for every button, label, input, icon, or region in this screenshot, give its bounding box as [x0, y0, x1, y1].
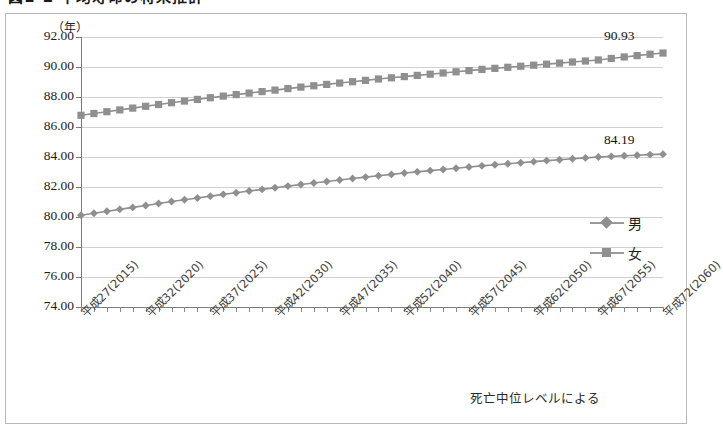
data-point-marker [362, 77, 369, 84]
series-line-男 [81, 154, 663, 215]
data-point-marker [659, 49, 666, 56]
data-point-marker [245, 187, 253, 195]
data-point-marker [440, 69, 447, 76]
data-point-marker [207, 94, 214, 101]
data-point-marker [336, 176, 344, 184]
data-point-marker [336, 79, 343, 86]
data-point-marker [233, 91, 240, 98]
data-point-marker [646, 151, 654, 159]
data-point-marker [194, 96, 201, 103]
diamond-marker-icon [600, 216, 613, 229]
data-point-marker [530, 158, 538, 166]
data-point-marker [633, 151, 641, 159]
data-point-marker [646, 51, 653, 58]
data-point-marker [634, 52, 641, 59]
data-point-marker [116, 106, 123, 113]
data-point-marker [543, 157, 551, 165]
y-axis-tick-label: 86.00 [14, 118, 74, 134]
data-point-marker [168, 198, 176, 206]
data-point-marker [310, 179, 318, 187]
data-point-marker [556, 60, 563, 67]
data-point-marker [375, 172, 383, 180]
data-point-marker [362, 173, 370, 181]
data-point-marker [620, 152, 628, 160]
data-point-marker [90, 209, 98, 217]
square-marker-icon [602, 248, 611, 257]
legend-label-male: 男 [628, 213, 642, 233]
data-point-marker [181, 196, 189, 204]
data-point-marker [427, 71, 434, 78]
data-point-marker [595, 56, 602, 63]
data-point-marker [594, 153, 602, 161]
data-point-marker [219, 190, 227, 198]
data-point-marker [504, 160, 512, 168]
data-point-marker [103, 207, 111, 215]
data-point-marker [349, 78, 356, 85]
data-point-marker [581, 154, 589, 162]
male-end-value-label: 84.19 [604, 132, 634, 148]
female-end-value-label: 90.93 [604, 28, 634, 44]
data-point-marker [181, 97, 188, 104]
chart-title-text: 図1-2 平均寿命の将来推計 [8, 0, 204, 6]
data-point-marker [426, 167, 434, 175]
data-point-marker [77, 112, 84, 119]
y-axis-tick-label: 78.00 [14, 238, 74, 254]
data-point-marker [465, 163, 473, 171]
data-point-marker [155, 200, 163, 208]
y-axis-tick-label: 88.00 [14, 88, 74, 104]
data-point-marker [452, 164, 460, 172]
y-axis-tick-label: 82.00 [14, 178, 74, 194]
data-point-marker [271, 87, 278, 94]
data-point-marker [168, 99, 175, 106]
chart-legend: 男 女 [590, 208, 660, 268]
y-axis-tick-label: 90.00 [14, 58, 74, 74]
data-point-marker [142, 201, 150, 209]
data-point-marker [517, 159, 525, 167]
data-point-marker [284, 182, 292, 190]
data-point-marker [556, 156, 564, 164]
data-point-marker [439, 165, 447, 173]
data-point-marker [246, 90, 253, 97]
data-point-marker [400, 169, 408, 177]
data-point-marker [517, 63, 524, 70]
data-point-marker [543, 61, 550, 68]
data-point-marker [413, 168, 421, 176]
data-point-marker [530, 62, 537, 69]
data-point-marker [323, 81, 330, 88]
data-point-marker [569, 58, 576, 65]
data-point-marker [608, 55, 615, 62]
data-point-marker [478, 66, 485, 73]
data-point-marker [90, 110, 97, 117]
data-point-marker [258, 185, 266, 193]
data-point-marker [155, 101, 162, 108]
y-axis-tick-label: 92.00 [14, 28, 74, 44]
legend-label-female: 女 [628, 243, 642, 263]
data-point-marker [607, 152, 615, 160]
data-point-marker [504, 64, 511, 71]
data-point-marker [297, 84, 304, 91]
y-axis-tick-label: 80.00 [14, 208, 74, 224]
data-point-marker [193, 194, 201, 202]
data-point-marker [388, 74, 395, 81]
data-point-marker [491, 161, 499, 169]
data-point-marker [232, 189, 240, 197]
data-point-marker [310, 82, 317, 89]
data-point-marker [271, 184, 279, 192]
data-point-marker [414, 72, 421, 79]
data-point-marker [569, 155, 577, 163]
chart-footnote: 死亡中位レベルによる [470, 388, 600, 407]
legend-item-male[interactable]: 男 [590, 208, 660, 238]
data-point-marker [206, 192, 214, 200]
data-point-marker [284, 85, 291, 92]
data-point-marker [129, 105, 136, 112]
legend-item-female[interactable]: 女 [590, 238, 660, 268]
data-point-marker [323, 177, 331, 185]
data-point-marker [129, 203, 137, 211]
data-point-marker [349, 174, 357, 182]
data-point-marker [621, 53, 628, 60]
data-point-marker [465, 67, 472, 74]
data-point-marker [142, 103, 149, 110]
data-point-marker [258, 88, 265, 95]
data-point-marker [491, 65, 498, 72]
